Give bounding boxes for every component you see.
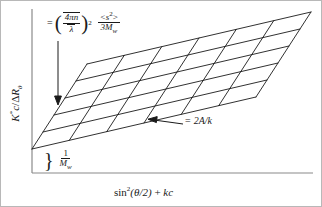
slope-value: 2A/k bbox=[194, 115, 212, 126]
grid-col-line bbox=[181, 29, 236, 114]
formula-pointer-arrow bbox=[55, 41, 62, 105]
intercept-annotation: } 1 Mw bbox=[44, 149, 75, 172]
grid-col-line bbox=[32, 64, 87, 149]
intercept-fraction: 1 Mw bbox=[58, 149, 74, 172]
formula-numerator: 4πn bbox=[63, 12, 81, 23]
formula-annotation: = ( 4πn λ ) 2 <s2> 3Mw bbox=[47, 11, 121, 36]
x-axis-label: sin2(θ/2) + kc bbox=[114, 186, 173, 198]
formula-exponent: 2 bbox=[88, 20, 92, 27]
x-label-plus: + bbox=[152, 186, 164, 198]
grid-col-line bbox=[219, 21, 274, 106]
formula-mw-text: 3M bbox=[100, 22, 112, 32]
formula-ms-close: > bbox=[113, 12, 118, 22]
formula-refractive-fraction: 4πn λ bbox=[63, 12, 81, 34]
intercept-mw-subscript: w bbox=[67, 163, 72, 171]
intercept-mw-text: M bbox=[60, 158, 68, 168]
y-label-delta: Δ bbox=[9, 96, 21, 103]
intercept-brace: } bbox=[44, 152, 54, 168]
formula-equals-sign: = bbox=[47, 18, 53, 29]
intercept-denominator: Mw bbox=[58, 159, 74, 171]
zimm-plot-figure: = ( 4πn λ ) 2 <s2> 3Mw K*c/ΔRθ sin2(θ/2)… bbox=[0, 0, 322, 207]
y-axis-label: K*c/ΔRθ bbox=[9, 74, 24, 134]
grid-col-line bbox=[256, 12, 311, 97]
formula-ms-open: <s bbox=[100, 12, 110, 22]
slope-annotation: =2A/k bbox=[185, 116, 212, 127]
y-label-r: R bbox=[9, 89, 21, 96]
x-label-sin: sin bbox=[114, 186, 127, 198]
formula-mw-term: 3Mw bbox=[98, 23, 119, 35]
slope-equals-sign: = bbox=[185, 115, 191, 126]
y-label-theta: θ bbox=[16, 86, 24, 89]
formula-paren-open: ( bbox=[55, 14, 62, 33]
formula-paren-close: ) bbox=[81, 14, 88, 33]
y-label-slash: / bbox=[9, 103, 21, 106]
y-label-c: c bbox=[9, 106, 21, 111]
grid-col-line bbox=[144, 38, 199, 123]
formula-mw-subscript: w bbox=[112, 27, 117, 35]
grid-col-line bbox=[69, 55, 124, 140]
x-label-kc: kc bbox=[163, 186, 173, 198]
x-label-argument: (θ/2) bbox=[130, 186, 151, 198]
y-label-k: K bbox=[9, 114, 21, 121]
y-label-star: * bbox=[8, 111, 16, 115]
formula-radius-fraction: <s2> 3Mw bbox=[98, 11, 120, 36]
formula-denominator: λ bbox=[67, 24, 75, 34]
